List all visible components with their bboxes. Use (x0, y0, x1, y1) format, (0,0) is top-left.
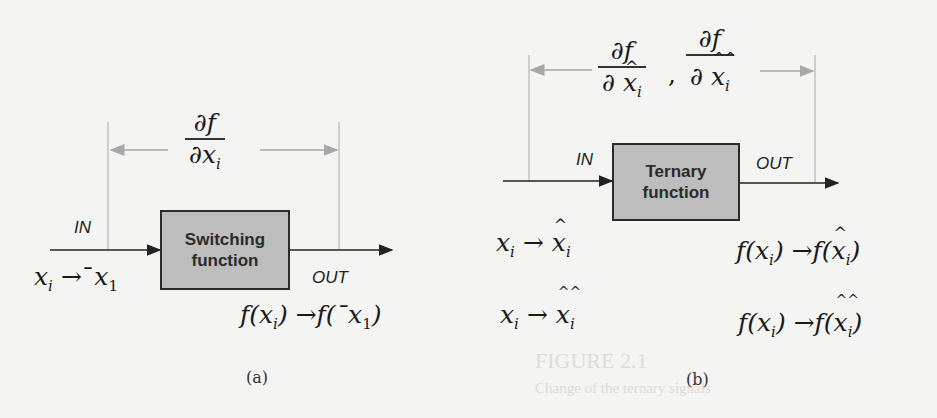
arrow-icon: → (794, 308, 815, 337)
derivative-denominator: ∂xi (185, 140, 225, 179)
block-label-line2: function (642, 182, 709, 203)
derivative-df-dxi: ∂f ∂xi (185, 108, 225, 179)
output-mapping: f(xi) →f(¯x1) (240, 300, 382, 333)
derivative-separator: , (668, 60, 676, 89)
input-mapping-doublehat: xi → ^^xi (500, 300, 575, 333)
output-mapping-doublehat: f(xi) →f(^^xi) (738, 308, 862, 341)
output-mapping-hat: f(xi) →f(^xi) (736, 236, 860, 269)
in-label: IN (74, 218, 91, 238)
arrow-icon: → (527, 300, 548, 329)
arrow-icon: → (61, 262, 82, 291)
block-label-line2: function (191, 250, 258, 271)
diagram-wires (0, 0, 937, 418)
switching-function-block: Switching function (160, 210, 290, 290)
ternary-function-block: Ternary function (612, 143, 740, 221)
in-label: IN (576, 150, 593, 170)
arrow-icon: → (296, 300, 317, 329)
input-mapping: xi →¯x1 (34, 262, 118, 295)
out-label: OUT (756, 154, 792, 174)
input-mapping-hat: xi → ^xi (496, 228, 571, 261)
arrow-icon: → (523, 228, 544, 257)
block-label-line1: Ternary (645, 161, 706, 182)
caption-b: (b) (686, 370, 709, 389)
out-label: OUT (312, 268, 348, 288)
derivative-df-dxdoublehat: ∂f ∂ ^^xi (686, 24, 734, 101)
derivative-df-dxhat: ∂f ∂ ^xi (598, 36, 646, 107)
caption-a: (a) (246, 368, 268, 387)
arrow-icon: → (792, 236, 813, 265)
block-label-line1: Switching (185, 229, 265, 250)
derivative-numerator: ∂f (190, 108, 220, 138)
